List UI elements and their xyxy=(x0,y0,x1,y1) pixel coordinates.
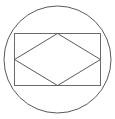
geometry-diagram xyxy=(0,0,115,119)
circumscribed-circle xyxy=(4,6,111,113)
geometric-figure-canvas xyxy=(0,0,115,119)
inscribed-rectangle xyxy=(15,34,101,86)
inscribed-rhombus xyxy=(15,34,101,86)
